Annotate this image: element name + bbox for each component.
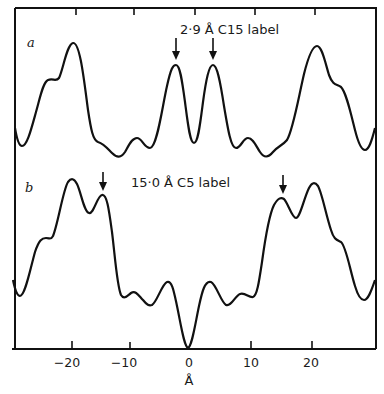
arrow-icon-b-left (99, 172, 107, 191)
annotation-a: 2·9 Å C15 label (180, 22, 279, 37)
chart-canvas: a b 2·9 Å C15 label 15·0 Å C5 label −20 … (0, 0, 384, 394)
top-ticks (76, 8, 315, 15)
arrow-icon-a-right (209, 38, 217, 60)
tick-label-neg20: −20 (54, 355, 80, 370)
tick-label-0: 0 (185, 355, 193, 370)
tick-label-neg10: −10 (111, 355, 137, 370)
x-axis-title: Å (185, 373, 194, 388)
curve-b (13, 179, 375, 348)
curve-a (15, 43, 375, 157)
panel-label-a: a (27, 35, 35, 50)
tick-label-20: 20 (303, 355, 319, 370)
density-profile-figure: a b 2·9 Å C15 label 15·0 Å C5 label −20 … (0, 0, 384, 394)
arrow-icon-b-right (279, 175, 287, 194)
arrow-icon-a-left (172, 38, 180, 60)
annotation-b: 15·0 Å C5 label (131, 175, 230, 190)
panel-label-b: b (25, 180, 33, 195)
tick-label-10: 10 (243, 355, 259, 370)
